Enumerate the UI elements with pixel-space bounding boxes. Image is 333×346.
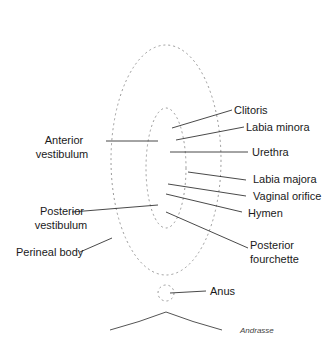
label-clitoris: Clitoris — [234, 104, 268, 117]
label-posterior-vestibulum-line1: Posterior — [20, 205, 104, 218]
label-anus: Anus — [210, 285, 235, 298]
label-labia-minora: Labia minora — [246, 121, 310, 134]
label-labia-majora: Labia majora — [253, 173, 317, 186]
label-posterior-fourchette-line2: fourchette — [250, 253, 299, 266]
label-posterior-fourchette-line1: Posterior — [250, 239, 294, 252]
label-hymen: Hymen — [248, 207, 283, 220]
label-posterior-vestibulum-line2: vestibulum — [18, 219, 104, 232]
anatomy-diagram: Clitoris Labia minora Urethra Labia majo… — [0, 0, 333, 346]
label-perineal-body: Perineal body — [16, 246, 83, 259]
artist-signature: Andrasse — [240, 324, 274, 337]
label-anterior-vestibulum-line1: Anterior — [26, 134, 102, 147]
label-anterior-vestibulum-line2: vestibulum — [20, 148, 104, 161]
label-urethra: Urethra — [252, 146, 289, 159]
label-vaginal-orifice: Vaginal orifice — [253, 190, 321, 203]
